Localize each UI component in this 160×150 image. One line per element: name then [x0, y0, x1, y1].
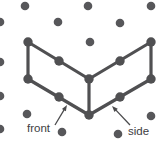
front-arrow-line — [55, 108, 65, 125]
front-label: front — [27, 122, 51, 134]
grid-dot — [0, 58, 4, 67]
vertex-dot — [84, 74, 93, 83]
grid-dot — [147, 2, 156, 11]
vertex-dot — [146, 74, 155, 83]
grid-dot — [23, 110, 32, 119]
grid-dot — [0, 125, 4, 134]
vertex-dot — [146, 37, 155, 46]
grid-dot — [116, 19, 125, 28]
vertex-dot — [54, 92, 63, 101]
grid-dot — [86, 38, 95, 47]
grid-dot — [147, 112, 156, 121]
vertex-dot — [115, 92, 124, 101]
grid-dot — [54, 18, 63, 27]
side-label: side — [128, 125, 149, 137]
vertex-dot — [115, 56, 124, 65]
front-arrow-head — [62, 105, 67, 111]
grid-dot — [21, 2, 30, 11]
grid-dot — [0, 18, 4, 27]
vertex-dot — [84, 110, 93, 119]
isometric-dot-diagram: frontside — [0, 0, 160, 150]
vertex-dot — [54, 56, 63, 65]
diagram-canvas: frontside — [0, 0, 160, 150]
vertex-dot — [23, 37, 32, 46]
grid-dot — [0, 92, 4, 101]
vertex-dot — [23, 74, 32, 83]
grid-dot — [84, 2, 93, 11]
grid-dot — [114, 130, 123, 139]
side-arrow-line — [115, 109, 130, 125]
grid-dot — [58, 128, 67, 137]
